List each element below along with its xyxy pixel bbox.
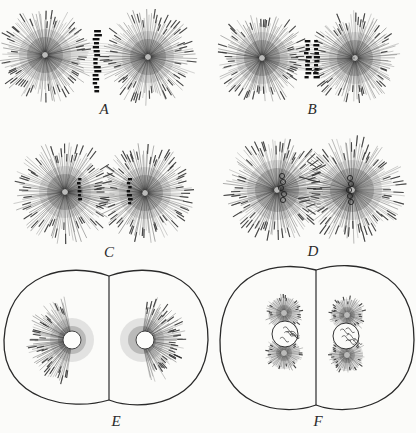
aster-left <box>0 10 91 102</box>
panel-e <box>4 270 208 405</box>
aster-right <box>100 9 198 106</box>
panel-label-b: B <box>307 101 316 118</box>
cell-membrane <box>4 270 208 405</box>
nucleus-left <box>63 331 81 349</box>
panel-a <box>0 9 197 106</box>
nucleus-right <box>136 331 154 349</box>
panel-d <box>223 135 406 243</box>
panel-label-e: E <box>111 413 120 430</box>
half-aster-left <box>26 297 94 384</box>
metaphase-plate <box>93 30 102 92</box>
panel-b <box>218 10 400 103</box>
mitosis-figure: A B C D E F <box>0 0 416 433</box>
aster-left <box>218 15 309 101</box>
nucleus-right <box>333 323 359 349</box>
cell-membrane <box>220 266 414 410</box>
panel-f <box>220 266 414 410</box>
aster-right <box>96 143 194 242</box>
panel-c <box>13 143 194 245</box>
illustration-canvas <box>0 0 416 433</box>
panel-label-c: C <box>104 244 114 261</box>
aster-right <box>307 10 400 103</box>
panel-label-a: A <box>99 101 108 118</box>
panel-label-d: D <box>308 243 319 260</box>
panel-label-f: F <box>313 413 322 430</box>
